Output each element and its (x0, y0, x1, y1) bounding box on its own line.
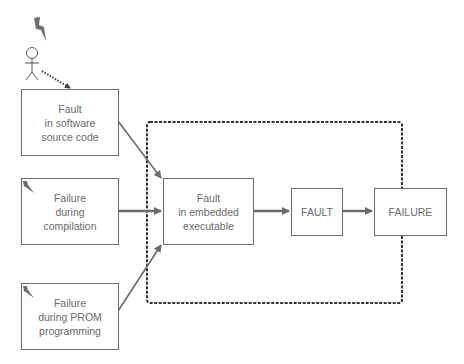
node-fault-in-embedded-executable: Fault in embedded executable (163, 178, 254, 245)
lightning-icon (32, 16, 48, 44)
node-label-line: Fault (41, 102, 98, 116)
node-label-line: Fault (178, 191, 239, 205)
node-label-line: in embedded (178, 205, 239, 219)
node-label-line: Failure (43, 191, 96, 205)
node-label-line: programming (38, 324, 102, 338)
human-to-source-arrow (42, 71, 70, 88)
node-failure: FAILURE (374, 188, 447, 236)
stick-figure-icon (25, 48, 39, 81)
node-label-line: executable (178, 219, 239, 233)
node-label-line: during PROM (38, 310, 102, 324)
node-label-line: in software (41, 116, 98, 130)
node-fault: FAULT (291, 188, 343, 236)
node-label-line: during (43, 205, 96, 219)
node-fault-in-software-source: Fault in software source code (21, 89, 119, 156)
node-label-line: Failure (38, 296, 102, 310)
node-label-line: FAILURE (389, 205, 433, 219)
lightning-icon (22, 180, 36, 196)
node-label-line: source code (41, 130, 98, 144)
prom-to-embedded-arrow (118, 245, 161, 311)
node-label-line: compilation (43, 219, 96, 233)
source-to-embedded-arrow (118, 121, 161, 178)
node-label-line: FAULT (301, 205, 333, 219)
lightning-icon (22, 285, 36, 301)
